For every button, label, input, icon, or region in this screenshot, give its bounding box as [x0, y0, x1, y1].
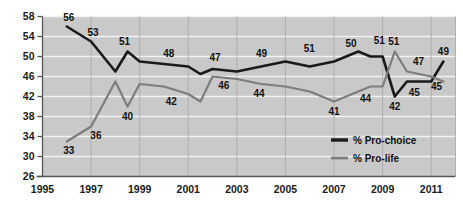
data-point-label: 48 [163, 48, 175, 59]
y-tick-label: 26 [23, 170, 35, 182]
y-tick-label: 50 [23, 50, 35, 62]
x-tick-label: 2001 [177, 183, 201, 195]
data-point-label: 50 [345, 38, 357, 49]
chart-canvas: 263034384246505458 199519971999200120032… [0, 0, 463, 209]
data-point-label: 49 [438, 46, 450, 57]
data-point-label: 41 [328, 106, 340, 117]
data-point-label: 44 [360, 93, 372, 104]
x-axis-tick-labels: 199519971999200120032005200720092011 [31, 183, 443, 195]
data-point-label: 51 [388, 36, 400, 47]
y-tick-label: 38 [23, 110, 35, 122]
data-point-label: 51 [374, 35, 386, 46]
x-tick-label: 2009 [371, 183, 395, 195]
data-point-label: 40 [122, 111, 134, 122]
data-point-label: 51 [119, 36, 131, 47]
data-point-label: 42 [166, 96, 178, 107]
y-tick-label: 58 [23, 10, 35, 22]
data-point-label: 44 [254, 88, 266, 99]
data-point-label: 42 [389, 101, 401, 112]
legend-label: % Pro-choice [353, 135, 417, 146]
y-tick-label: 30 [23, 150, 35, 162]
y-tick-label: 42 [23, 90, 35, 102]
data-point-label: 33 [63, 145, 75, 156]
data-point-label: 36 [90, 130, 102, 141]
legend-label: % Pro-life [353, 153, 400, 164]
x-tick-label: 2003 [225, 183, 249, 195]
data-point-label: 45 [431, 81, 443, 92]
y-tick-label: 46 [23, 70, 35, 82]
line-chart: 263034384246505458 199519971999200120032… [0, 0, 463, 209]
x-tick-label: 1997 [79, 183, 103, 195]
x-tick-label: 2011 [420, 183, 443, 195]
x-tick-label: 2005 [274, 183, 298, 195]
data-point-label: 47 [413, 56, 425, 67]
x-tick-label: 1995 [31, 183, 55, 195]
data-point-label: 46 [218, 80, 230, 91]
x-tick-label: 1999 [128, 183, 152, 195]
data-point-label: 53 [88, 27, 100, 38]
data-point-label: 45 [409, 87, 421, 98]
y-tick-label: 54 [23, 30, 35, 42]
y-tick-label: 34 [23, 130, 35, 142]
data-point-label: 47 [209, 52, 221, 63]
data-point-label: 51 [304, 43, 316, 54]
data-point-label: 49 [256, 48, 268, 59]
data-point-label: 56 [63, 12, 75, 23]
x-tick-label: 2007 [322, 183, 346, 195]
y-axis-tick-labels: 263034384246505458 [23, 10, 43, 182]
